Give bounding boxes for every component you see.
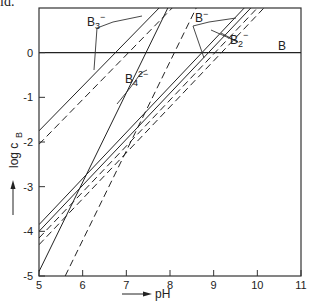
annotation-label: B2− <box>230 30 248 49</box>
y-tick-label: -4 <box>23 225 33 237</box>
series-line <box>39 8 172 144</box>
x-tick-label: 10 <box>251 279 263 291</box>
y-tick-label: -5 <box>23 270 33 282</box>
annotation-label: B <box>278 39 286 53</box>
x-axis-label: pH <box>155 287 170 301</box>
annotation-leader <box>94 28 97 70</box>
series-line <box>39 8 251 231</box>
series-line <box>39 8 257 238</box>
series-line <box>39 8 168 272</box>
x-tick-label: 9 <box>211 279 217 291</box>
plot-frame <box>39 8 301 276</box>
y-tick-label: 0 <box>27 47 33 59</box>
x-tick-label: 11 <box>295 279 306 291</box>
y-tick-label: -1 <box>23 91 33 103</box>
y-axis-label: log c <box>7 143 21 168</box>
y-tick-label: -2 <box>23 136 33 148</box>
x-axis-arrowhead <box>143 292 152 297</box>
x-tick-label: 7 <box>123 279 129 291</box>
x-tick-label: 6 <box>80 279 86 291</box>
y-axis-arrowhead <box>11 180 16 189</box>
log-concentration-vs-ph-chart: 5678910110-1-2-3-4-5B3−B42−B−B2−Blog cBp… <box>0 0 310 306</box>
annotation-label: B3− <box>87 12 105 31</box>
annotation-leader <box>117 88 130 104</box>
series-line <box>39 8 244 225</box>
x-tick-label: 5 <box>36 279 42 291</box>
y-tick-label: -3 <box>23 181 33 193</box>
y-axis-label-subscript: B <box>14 132 24 138</box>
